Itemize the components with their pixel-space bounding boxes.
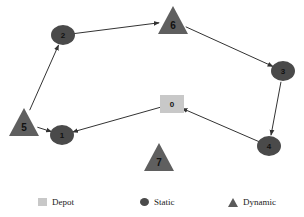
node-1: 1	[50, 125, 74, 145]
node-6: 6	[158, 6, 188, 34]
node-0: 0	[160, 95, 184, 113]
node-label: 6	[170, 20, 176, 31]
legend-label-static: Static	[154, 197, 175, 207]
node-label: 1	[60, 131, 65, 140]
node-label: 7	[156, 157, 162, 168]
node-label: 4	[267, 142, 272, 151]
node-label: 2	[61, 31, 66, 40]
edge-3-to-4	[271, 82, 281, 135]
edge-5-to-1	[37, 127, 51, 131]
depot-square-icon	[38, 198, 47, 206]
edge-5-to-2	[30, 45, 59, 110]
legend: Depot Static Dynamic	[0, 197, 304, 213]
legend-item-depot: Depot	[38, 197, 74, 207]
edge-2-to-6	[74, 23, 159, 34]
route-graph: 01234567	[0, 0, 304, 197]
legend-label-depot: Depot	[52, 197, 74, 207]
dynamic-triangle-icon	[228, 198, 238, 207]
node-4: 4	[257, 136, 281, 156]
edge-6-to-3	[186, 27, 273, 67]
node-3: 3	[271, 61, 295, 81]
legend-label-dynamic: Dynamic	[243, 197, 276, 207]
legend-item-static: Static	[140, 197, 175, 207]
node-label: 5	[21, 122, 27, 133]
node-label: 0	[170, 100, 175, 109]
edge-4-to-0	[182, 108, 259, 141]
edge-0-to-1	[73, 107, 162, 132]
node-2: 2	[51, 25, 75, 45]
node-label: 3	[281, 67, 286, 76]
node-5: 5	[9, 108, 39, 136]
legend-item-dynamic: Dynamic	[228, 197, 276, 207]
node-7: 7	[144, 143, 174, 171]
static-circle-icon	[140, 198, 149, 206]
route-nodes: 01234567	[9, 6, 295, 171]
